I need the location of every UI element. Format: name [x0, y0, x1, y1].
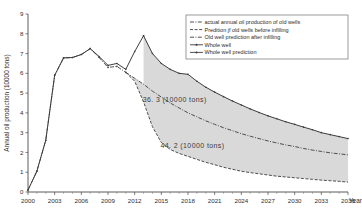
data-point-marker [152, 53, 154, 55]
data-point-marker [143, 35, 145, 37]
data-point-marker [232, 100, 234, 102]
legend-item-label: actual annual oil production of old well… [205, 19, 301, 25]
data-point-marker [36, 170, 38, 172]
legend-item-label: Old well prediction after infilling [205, 34, 281, 40]
x-tick-label: 2027 [261, 197, 275, 204]
legend-marker-dot [196, 51, 198, 53]
x-tick-label: 2006 [74, 197, 88, 204]
y-tick-label: 7 [20, 50, 24, 57]
data-point-marker [107, 65, 109, 67]
x-tick-label: 2000 [21, 197, 35, 204]
y-tick-label: 2 [20, 149, 24, 156]
x-tick-label: 2012 [128, 197, 142, 204]
y-axis-title: Annual oil production (10000 tons) [3, 54, 11, 151]
x-tick-label: 2015 [154, 197, 168, 204]
data-point-marker [312, 129, 314, 131]
data-point-marker [72, 57, 74, 59]
data-point-marker [45, 139, 47, 141]
band-value-annotation: 44. 2 (10000 tons) [160, 142, 224, 150]
data-point-marker [258, 112, 260, 114]
y-tick-label: 8 [20, 30, 24, 37]
y-tick-label: 6 [20, 69, 24, 76]
legend-item[interactable]: Predition jf old wells before infilling [190, 27, 289, 33]
data-point-marker [178, 73, 180, 75]
chart-figure: 0123456789 20002003200620092012201520182… [0, 0, 362, 224]
chart-legend: actual annual oil production of old well… [186, 15, 348, 59]
data-point-marker [116, 66, 118, 68]
chart-canvas: 0123456789 20002003200620092012201520182… [0, 0, 362, 224]
band-value-annotation: 36. 3 (10000 tons) [143, 96, 207, 104]
y-tick-label: 5 [20, 89, 24, 96]
legend-item-label: Predition jf old wells before infilling [205, 27, 289, 33]
data-point-marker [169, 69, 171, 71]
legend-item[interactable]: Old well prediction after infilling [190, 34, 280, 40]
y-tick-label: 1 [20, 168, 24, 175]
data-point-marker [329, 134, 331, 136]
data-point-marker [63, 57, 65, 59]
data-point-marker [125, 69, 127, 71]
data-point-marker [285, 121, 287, 123]
data-point-marker [321, 132, 323, 134]
y-tick-label: 4 [20, 109, 24, 116]
data-point-marker [338, 136, 340, 138]
data-point-marker [214, 91, 216, 93]
legend-item-label: Whole well prediction [205, 49, 257, 55]
data-point-marker [196, 80, 198, 82]
data-point-marker [303, 126, 305, 128]
data-point-marker [89, 48, 91, 50]
x-tick-label: 2024 [234, 197, 248, 204]
data-point-marker [347, 138, 349, 140]
data-point-marker [125, 72, 127, 74]
data-point-marker [98, 57, 100, 59]
data-point-marker [54, 75, 56, 77]
x-tick-label: 2030 [288, 197, 302, 204]
data-point-marker [107, 67, 109, 69]
data-point-marker [241, 104, 243, 106]
x-axis-title: Year [349, 197, 362, 204]
y-tick-label: 9 [20, 10, 24, 17]
x-tick-label: 2033 [314, 197, 328, 204]
data-point-marker [267, 115, 269, 117]
x-tick-label: 2021 [208, 197, 222, 204]
data-point-marker [249, 108, 251, 110]
data-point-marker [81, 54, 83, 56]
y-tick-label: 3 [20, 129, 24, 136]
data-point-marker [187, 74, 189, 76]
data-point-marker [116, 63, 118, 65]
legend-item-label: Whole well [205, 42, 232, 48]
data-point-marker [134, 51, 136, 53]
data-point-marker [161, 63, 163, 65]
y-tick-label: 0 [20, 188, 24, 195]
data-point-marker [223, 96, 225, 98]
x-tick-label: 2018 [181, 197, 195, 204]
data-point-marker [276, 118, 278, 120]
data-point-marker [294, 124, 296, 126]
x-tick-label: 2009 [101, 197, 115, 204]
legend-marker-dot [196, 44, 198, 46]
x-tick-label: 2003 [48, 197, 62, 204]
data-point-marker [205, 86, 207, 88]
legend-item[interactable]: actual annual oil production of old well… [190, 19, 300, 25]
